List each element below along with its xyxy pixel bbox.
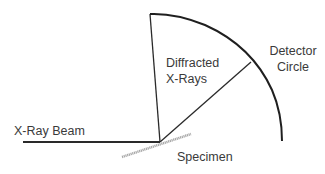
specimen-label: Specimen [177, 150, 233, 164]
detector-circle-label: Detector Circle [264, 44, 322, 74]
diffracted-label-line2: X-Rays [166, 72, 219, 86]
xray-diffraction-diagram: Diffracted X-Rays Detector Circle X-Ray … [0, 0, 325, 174]
diffracted-xrays-label: Diffracted X-Rays [166, 56, 219, 86]
detector-label-line2: Circle [264, 60, 322, 74]
xray-beam-label: X-Ray Beam [14, 124, 85, 138]
diffracted-label-line1: Diffracted [166, 56, 219, 70]
detector-label-line1: Detector [264, 44, 322, 58]
sector-edge-line [150, 14, 160, 142]
diagram-graphics [0, 0, 325, 174]
